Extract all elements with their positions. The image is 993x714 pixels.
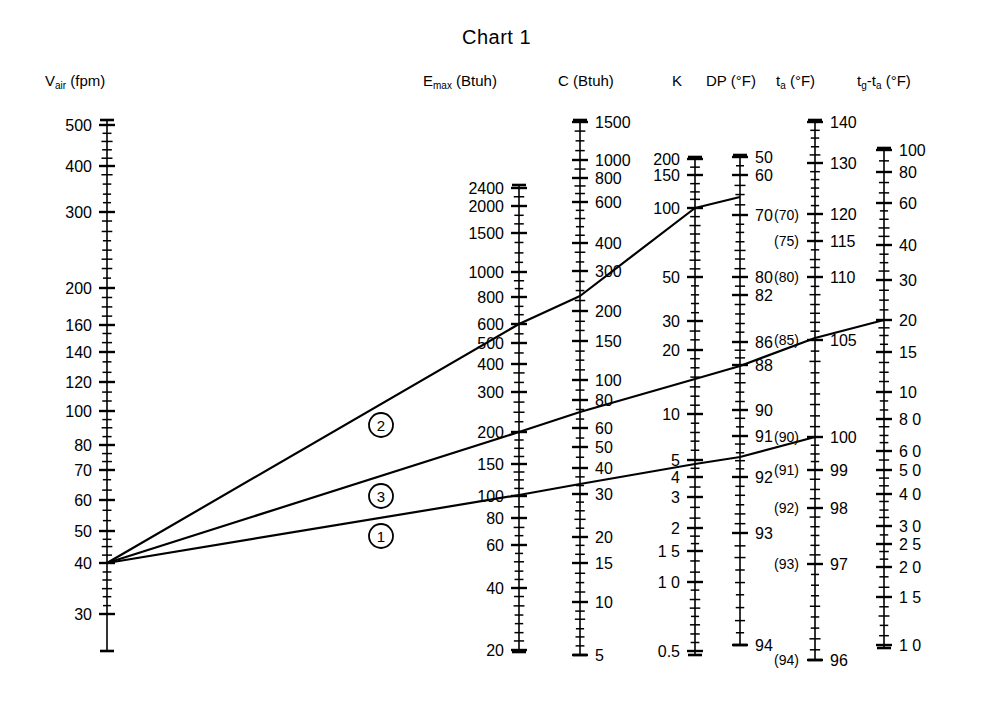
axis-tick-label: 5 0 (899, 462, 921, 479)
axis-tick-label: 92 (755, 469, 773, 486)
axis-tick-label: 4 (671, 469, 680, 486)
axis-tick-label: 97 (830, 556, 848, 573)
axis-tick-label: 100 (830, 429, 857, 446)
axis-tick-label: 20 (899, 312, 917, 329)
axis-tick-label: 500 (65, 117, 92, 134)
axis-tick-label: 3 0 (899, 518, 921, 535)
axis-tick-label: 70 (755, 207, 773, 224)
badge-number: 1 (377, 528, 385, 545)
axis-secondary-tick-label: (75) (774, 233, 799, 249)
axis-tick-label: 80 (899, 164, 917, 181)
axis-tick-label: 100 (899, 142, 926, 159)
axis-v-air: 500400300200160140120100807060504030 (65, 117, 115, 651)
axis-c: 1500100080060040030020015010080605040302… (572, 114, 631, 664)
axis-tick-label: 1500 (595, 114, 631, 131)
axis-tick-label: 50 (74, 523, 92, 540)
axis-tick-label: 20 (486, 642, 504, 659)
axis-tick-label: 1000 (595, 152, 631, 169)
index-lines-layer (107, 197, 884, 563)
axis-secondary-tick-label: (70) (774, 207, 799, 223)
axis-tick-label: 400 (595, 235, 622, 252)
axis-k: 2001501005030201054321 51 00.5 (653, 151, 703, 660)
axis-secondary-tick-label: (91) (774, 462, 799, 478)
axis-tick-label: 60 (899, 195, 917, 212)
axis-tick-label: 1 5 (658, 543, 680, 560)
axis-tick-label: 150 (595, 333, 622, 350)
axis-tick-label: 90 (755, 402, 773, 419)
axis-tick-label: 115 (830, 233, 856, 250)
axis-tick-label: 82 (755, 287, 773, 304)
axis-tick-label: 200 (595, 303, 622, 320)
axis-tick-label: 80 (74, 437, 92, 454)
axis-tick-label: 60 (74, 492, 92, 509)
axis-tick-label: 86 (755, 334, 773, 351)
axis-tick-label: 50 (595, 439, 613, 456)
axis-tick-label: 200 (653, 151, 680, 168)
axis-tick-label: 300 (65, 204, 92, 221)
axis-tick-label: 160 (65, 317, 92, 334)
axis-tick-label: 40 (899, 237, 917, 254)
axis-tick-label: 93 (755, 525, 773, 542)
axis-tick-label: 100 (65, 403, 92, 420)
axis-tick-label: 96 (830, 652, 848, 669)
index-line-2[interactable] (107, 197, 740, 563)
axis-tick-label: 80 (486, 510, 504, 527)
nomogram-canvas: 5004003002001601401201008070605040302400… (0, 0, 993, 714)
axis-tick-label: 15 (595, 555, 613, 572)
axis-e-max: 2400200015001000800600500400300200150100… (468, 180, 527, 659)
axis-tick-label: 150 (653, 167, 680, 184)
axis-tick-label: 99 (830, 462, 848, 479)
index-line-badge-2[interactable]: 2 (369, 413, 393, 437)
axis-tick-label: 2 0 (899, 559, 921, 576)
axis-tick-label: 91 (755, 428, 773, 445)
axis-tick-label: 110 (830, 269, 856, 286)
index-line-badge-3[interactable]: 3 (369, 484, 393, 508)
axis-tick-label: 400 (65, 158, 92, 175)
axis-tick-label: 100 (653, 200, 680, 217)
axis-tick-label: 800 (595, 170, 622, 187)
axis-tick-label: 140 (65, 344, 92, 361)
axis-tick-label: 8 0 (899, 411, 921, 428)
axis-tick-label: 1 0 (658, 574, 680, 591)
axis-secondary-tick-label: (92) (774, 500, 799, 516)
axis-tick-label: 40 (74, 555, 92, 572)
badge-number: 3 (377, 488, 385, 505)
axis-tick-label: 500 (477, 335, 504, 352)
axis-tick-label: 200 (65, 280, 92, 297)
axis-tick-label: 130 (830, 155, 857, 172)
axis-tick-label: 6 0 (899, 443, 921, 460)
axis-tick-label: 50 (755, 149, 773, 166)
axis-tick-label: 150 (477, 456, 504, 473)
axis-tick-label: 40 (595, 460, 613, 477)
axis-tick-label: 0.5 (658, 643, 680, 660)
axis-secondary-tick-label: (93) (774, 556, 799, 572)
axis-tick-label: 140 (830, 114, 857, 131)
axis-secondary-tick-label: (94) (774, 652, 799, 668)
axis-tick-label: 100 (477, 488, 504, 505)
index-line-labels-layer: 231 (369, 413, 393, 548)
axis-tick-label: 5 (595, 647, 604, 664)
axis-tick-label: 94 (755, 637, 773, 654)
axis-tick-label: 3 (671, 489, 680, 506)
nomogram-chart: Chart 1 Vair (fpm) Emax (Btuh) C (Btuh) … (0, 0, 993, 714)
axis-tick-label: 2400 (468, 180, 504, 197)
index-line-1[interactable] (107, 437, 815, 563)
axes-layer: 5004003002001601401201008070605040302400… (65, 114, 926, 669)
axis-tick-label: 15 (899, 344, 917, 361)
axis-tick-label: 400 (477, 356, 504, 373)
axis-tick-label: 100 (595, 372, 622, 389)
axis-tick-label: 4 0 (899, 486, 921, 503)
badge-number: 2 (377, 417, 385, 434)
axis-tick-label: 30 (74, 606, 92, 623)
axis-tick-label: 20 (662, 342, 680, 359)
index-line-badge-1[interactable]: 1 (369, 524, 393, 548)
axis-tick-label: 2 5 (899, 536, 921, 553)
axis-secondary-tick-label: (80) (774, 269, 799, 285)
axis-tick-label: 2 (671, 520, 680, 537)
axis-tick-label: 600 (595, 194, 622, 211)
axis-tick-label: 60 (486, 537, 504, 554)
axis-tick-label: 20 (595, 529, 613, 546)
axis-tick-label: 1000 (468, 264, 504, 281)
axis-tick-label: 300 (477, 384, 504, 401)
axis-tick-label: 98 (830, 500, 848, 517)
